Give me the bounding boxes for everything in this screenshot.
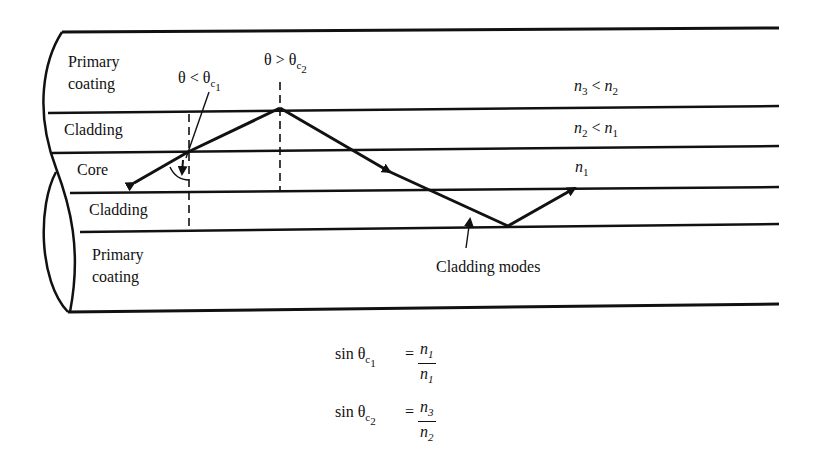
fiber-diagram [0, 0, 819, 457]
layer-label-cladding-bottom: Cladding [89, 200, 148, 220]
angle-greater-than-critical: θ > θc2 [264, 50, 307, 79]
angle-less-than-critical: θ < θc1 [178, 68, 221, 97]
equation-2-fraction: n3 n2 [418, 398, 436, 447]
index-label-n1: n1 [575, 157, 589, 182]
ray-segment-3 [388, 171, 508, 226]
cladding-bottom-boundary [80, 224, 779, 232]
ray-segment-2 [280, 108, 390, 172]
cladding-modes-label: Cladding modes [436, 257, 540, 277]
layer-label-core: Core [77, 160, 108, 180]
cladding-modes-pointer [466, 219, 470, 248]
angle-arc [170, 167, 189, 180]
equation-2-lhs: sin θc2 [335, 402, 376, 431]
layer-label-cladding-top: Cladding [64, 120, 123, 140]
core-top-boundary [52, 146, 779, 153]
equation-2-equals: = [405, 402, 414, 422]
index-label-n3-lt-n2: n3 < n2 [574, 76, 618, 101]
outer-top-boundary [62, 28, 779, 32]
equation-1-equals: = [405, 344, 414, 364]
layer-label-primary-coating-top-2: coating [68, 74, 115, 94]
layer-label-primary-coating-top-1: Primary [68, 52, 120, 72]
ray-segment-4 [508, 188, 575, 226]
cladding-top-boundary [48, 106, 779, 113]
index-label-n2-lt-n1: n2 < n1 [574, 118, 618, 143]
outer-bottom-boundary [68, 304, 779, 312]
equation-1-fraction: n1 n1 [418, 340, 436, 389]
equation-1-lhs: sin θc1 [335, 344, 376, 373]
angle-arrow [182, 160, 183, 174]
layer-label-primary-coating-bottom-1: Primary [92, 245, 144, 265]
layer-label-primary-coating-bottom-2: coating [92, 267, 139, 287]
